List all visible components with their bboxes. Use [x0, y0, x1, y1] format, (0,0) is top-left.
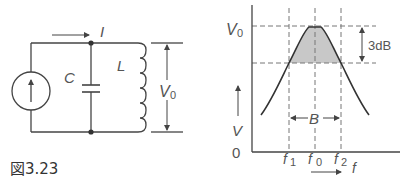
tick-f0-sub: 0	[316, 156, 322, 168]
figure-caption: 図3.23	[10, 160, 58, 178]
y-axis-label: V	[232, 122, 244, 139]
bandwidth-label: B	[309, 110, 319, 127]
junction-dot-bottom	[88, 129, 93, 134]
tick-f0: f	[308, 151, 314, 167]
x-axis-label: f	[352, 160, 358, 176]
tick-f2: f	[334, 151, 340, 167]
tick-f1: f	[283, 151, 289, 167]
y-top-subscript: 0	[237, 27, 243, 39]
circuit-diagram	[12, 35, 183, 135]
inductor-icon	[138, 43, 146, 132]
capacitor-icon	[82, 43, 100, 132]
resonance-chart	[238, 5, 400, 172]
inductor-label: L	[117, 57, 125, 74]
capacitor-label: C	[64, 69, 75, 86]
drop-label: 3dB	[368, 38, 391, 53]
tick-f1-sub: 1	[290, 156, 296, 168]
tick-f2-sub: 2	[341, 156, 347, 168]
voltage-subscript: 0	[170, 89, 176, 101]
origin-label: 0	[232, 144, 240, 161]
current-label: I	[100, 23, 104, 40]
current-source-icon	[12, 72, 50, 110]
junction-dot-top	[88, 40, 93, 45]
figure-canvas: I C L V 0 図3.23 V 0 V 0 3dB	[0, 0, 406, 181]
